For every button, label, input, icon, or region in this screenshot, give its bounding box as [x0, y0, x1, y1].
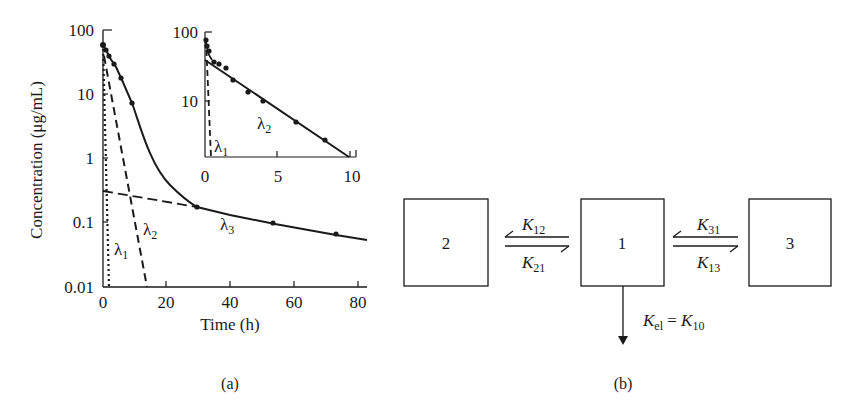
inset-x-tick-0: 0	[201, 167, 210, 186]
k31-label: K31	[696, 215, 720, 237]
y-tick-100: 100	[69, 21, 95, 40]
kel-label: Kel = K10	[642, 311, 704, 333]
k13-label: K13	[696, 253, 720, 275]
y-axis-label: Concentration (μg/mL)	[27, 81, 46, 239]
lambda2-label: λ2	[143, 220, 157, 242]
y-tick-1: 1	[86, 149, 95, 168]
y-tick-10: 10	[77, 85, 94, 104]
k12-label: K12	[521, 215, 545, 237]
x-tick-0: 0	[99, 293, 108, 312]
x-ticks	[166, 281, 358, 287]
inset-lambda2-label: λ2	[257, 114, 271, 136]
k21-label: K21	[521, 253, 545, 275]
inset-y-tick-10: 10	[181, 92, 198, 111]
main-chart: 100 10 1 0.1 0.01 0 20 40 60 80 Time (h)…	[27, 21, 367, 334]
inset-x-tick-10: 10	[344, 167, 361, 186]
figure-canvas: 100 10 1 0.1 0.01 0 20 40 60 80 Time (h)…	[0, 0, 852, 408]
inset-chart: 100 10 0 5 10 λ1 λ2	[173, 23, 361, 186]
lambda3-label: λ3	[220, 215, 234, 237]
compartment-3-label: 3	[786, 234, 795, 253]
panel-b-label: (b)	[614, 375, 633, 393]
inset-lambda1-label: λ1	[214, 137, 228, 159]
y-ticks	[103, 94, 108, 222]
inset-y-tick-100: 100	[173, 23, 199, 42]
arrows-1-3	[673, 231, 738, 252]
elimination-arrowhead	[618, 336, 628, 345]
x-tick-20: 20	[158, 293, 175, 312]
compartment-2-label: 2	[442, 234, 451, 253]
lambda1-label: λ1	[114, 240, 128, 262]
x-tick-40: 40	[222, 293, 239, 312]
panel-a-label: (a)	[221, 375, 239, 393]
compartment-1-label: 1	[618, 234, 627, 253]
x-tick-60: 60	[286, 293, 303, 312]
inset-lambda2-line	[205, 60, 349, 157]
compartment-diagram: 2 1 3 K12 K21 K31 K13 Kel = K10	[404, 199, 831, 345]
y-tick-0.1: 0.1	[73, 213, 94, 232]
lambda3-line	[103, 191, 197, 207]
lambda1-line	[103, 44, 109, 287]
inset-x-tick-5: 5	[274, 167, 283, 186]
x-tick-80: 80	[350, 293, 367, 312]
x-axis-label: Time (h)	[200, 315, 259, 334]
y-tick-0.01: 0.01	[64, 278, 94, 297]
